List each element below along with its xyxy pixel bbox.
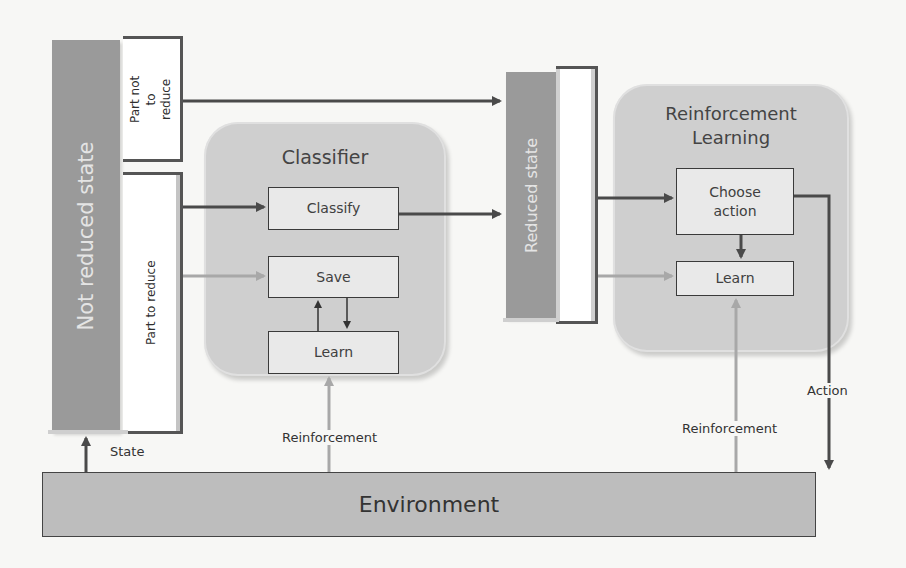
connector-layer [0,0,906,568]
reinforcement-label-right: Reinforcement [680,421,779,436]
reinforcement-label-left: Reinforcement [280,430,379,445]
state-label: State [108,444,146,459]
arrow-action [794,196,829,468]
action-label: Action [805,383,850,398]
